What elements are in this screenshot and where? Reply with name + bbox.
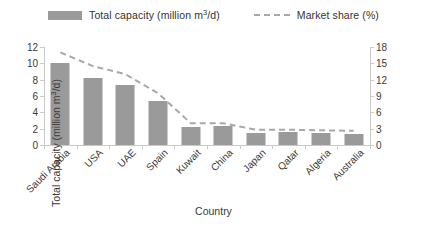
y-axis-right-tick [370,129,374,130]
y-axis-right-tick-label: 6 [376,107,406,118]
market-share-line-series [44,47,370,145]
y-axis-right-tick-label: 9 [376,91,406,102]
y-axis-right-tick [370,63,374,64]
y-axis-right-tick [370,96,374,97]
chart-legend: Total capacity (million m3/d) Market sha… [0,6,427,24]
y-axis-left-tick-label: 12 [8,42,38,53]
y-axis-left-tick-label: 4 [8,107,38,118]
legend-bar-swatch-icon [48,11,82,20]
y-axis-left-tick-label: 0 [8,140,38,151]
chart-container: Total capacity (million m3/d) Market sha… [0,0,427,232]
legend-label-market-share: Market share (%) [297,9,379,21]
y-axis-right-tick-label: 3 [376,123,406,134]
y-axis-right-tick-label: 12 [376,74,406,85]
legend-item-market-share: Market share (%) [254,9,379,21]
market-share-line [60,52,353,130]
legend-item-total-capacity: Total capacity (million m3/d) [48,9,220,21]
y-axis-right-tick [370,80,374,81]
plot-area: 024681012 0369121518 Total capacity (mil… [44,47,370,145]
y-axis-left-tick-label: 10 [8,58,38,69]
legend-dashed-line-swatch-icon [254,14,290,16]
y-axis-right-tick-label: 0 [376,140,406,151]
x-axis-tick-labels: Saudi ArabiaUSAUAESpainKuwaitChinaJapanQ… [44,147,370,199]
legend-label-total-capacity: Total capacity (million m3/d) [89,9,220,21]
y-axis-right-tick-label: 18 [376,42,406,53]
y-axis-left-tick-label: 2 [8,123,38,134]
y-axis-right-tick [370,112,374,113]
y-axis-right-tick [370,47,374,48]
y-axis-left-tick-label: 6 [8,91,38,102]
x-axis-title: Country [0,205,427,217]
y-axis-right-tick-label: 15 [376,58,406,69]
y-axis-left-tick-label: 8 [8,74,38,85]
x-axis-tick [370,145,371,149]
